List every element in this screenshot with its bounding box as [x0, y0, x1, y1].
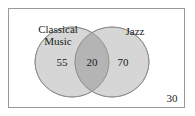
count-jazz-only: 70: [118, 56, 130, 68]
count-classical-music-only: 55: [57, 56, 69, 68]
set-label-classical-music-line1: Classical: [38, 23, 78, 35]
set-label-classical-music-line2: Music: [44, 35, 72, 47]
count-intersection: 20: [87, 56, 99, 68]
venn-diagram-figure: Classical Music Jazz 55 20 70 30: [0, 0, 195, 116]
venn-diagram-canvas: Classical Music Jazz 55 20 70 30: [0, 0, 195, 116]
count-outside-sets: 30: [167, 92, 179, 104]
set-label-jazz: Jazz: [126, 25, 145, 37]
